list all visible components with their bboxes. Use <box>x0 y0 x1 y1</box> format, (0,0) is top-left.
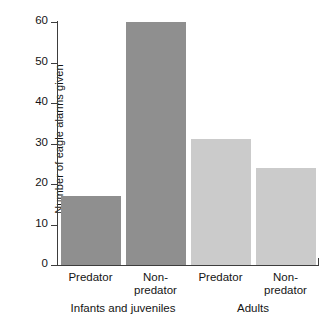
bar-2 <box>191 139 251 265</box>
y-tick-0 <box>51 265 58 266</box>
y-tick-label-wrap-40: 40 <box>0 103 48 104</box>
y-tick-30 <box>51 144 58 145</box>
x-tick-label-3-line2: predator <box>241 284 331 297</box>
x-group-label-adults: Adults <box>173 302 333 314</box>
y-tick-label-0: 0 <box>4 257 48 269</box>
y-tick-label-30: 30 <box>4 136 48 148</box>
y-tick-label-50: 50 <box>4 55 48 67</box>
y-tick-60 <box>51 22 58 23</box>
bar-1 <box>126 22 186 265</box>
y-tick-label-wrap-20: 20 <box>0 184 48 185</box>
x-tick-label-3-line1: Non- <box>241 271 331 284</box>
y-tick-label-40: 40 <box>4 95 48 107</box>
bar-chart-figure: Number of eagle alarms given 01020304050… <box>0 0 333 327</box>
x-tick-label-1-line2: predator <box>111 284 201 297</box>
y-tick-label-wrap-30: 30 <box>0 144 48 145</box>
y-tick-10 <box>51 225 58 226</box>
bar-0 <box>61 196 121 265</box>
x-tick-label-3: Non- predator <box>241 271 331 297</box>
y-tick-label-60: 60 <box>4 14 48 26</box>
bar-3 <box>256 168 316 265</box>
x-axis-line <box>57 265 319 266</box>
y-tick-label-wrap-50: 50 <box>0 63 48 64</box>
plot-area <box>58 22 318 265</box>
y-tick-label-wrap-10: 10 <box>0 225 48 226</box>
y-tick-40 <box>51 103 58 104</box>
y-tick-label-wrap-60: 60 <box>0 22 48 23</box>
y-tick-20 <box>51 184 58 185</box>
x-axis-end-tick <box>318 258 319 266</box>
y-tick-label-20: 20 <box>4 176 48 188</box>
y-tick-label-wrap-0: 0 <box>0 265 48 266</box>
y-tick-label-10: 10 <box>4 217 48 229</box>
y-tick-50 <box>51 63 58 64</box>
